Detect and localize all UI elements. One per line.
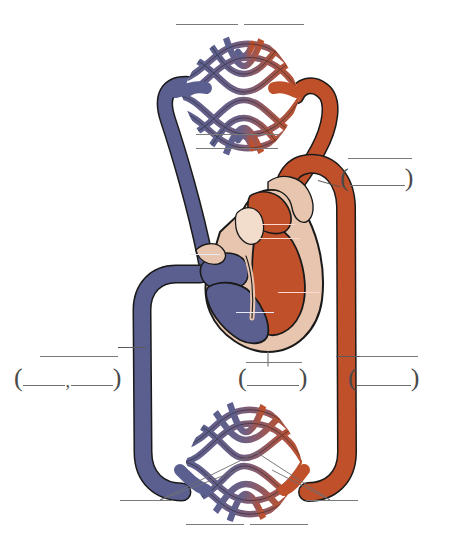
blank-bottom-mid-1[interactable]	[186, 524, 244, 525]
heart	[196, 176, 323, 352]
leader-left-middle	[118, 347, 146, 348]
blank-upper-mid-1[interactable]	[196, 134, 278, 135]
paren-blank-2[interactable]	[71, 372, 113, 386]
blank-left-middle[interactable]	[40, 356, 118, 357]
paren-open: (	[340, 165, 349, 191]
paren-open: (	[238, 365, 247, 391]
blank-top-left[interactable]	[176, 24, 238, 25]
paren-blank[interactable]	[357, 372, 411, 386]
pulmonary-capillary-bed	[175, 28, 309, 164]
blank-bottom-right[interactable]	[306, 500, 358, 501]
blank-top-right[interactable]	[244, 24, 304, 25]
blank-bottom-mid-2[interactable]	[250, 524, 308, 525]
paren-blank-1[interactable]	[23, 372, 65, 386]
white-blank-aortic-arch[interactable]	[259, 238, 300, 239]
white-blank-left-ventricle[interactable]	[278, 292, 320, 293]
white-blank-upper-vessel[interactable]	[259, 224, 295, 225]
paren-close: )	[411, 365, 420, 391]
blank-above-paren-upper-right[interactable]	[348, 158, 412, 159]
blank-upper-mid-2[interactable]	[196, 148, 278, 149]
diagram-canvas: ( ) ( , ) ( ) ( )	[0, 0, 456, 540]
circulatory-system-illustration	[0, 0, 456, 540]
paren-right-middle[interactable]: ( )	[348, 366, 419, 392]
paren-center-lower[interactable]: ( )	[238, 366, 307, 392]
paren-blank[interactable]	[349, 172, 405, 186]
leader-right-middle	[336, 356, 360, 357]
blank-center-lower[interactable]	[246, 362, 302, 363]
paren-separator: ,	[65, 372, 71, 390]
paren-close: )	[405, 165, 414, 191]
blank-bottom-left[interactable]	[120, 500, 172, 501]
paren-left-middle[interactable]: ( , )	[14, 366, 121, 392]
systemic-capillary-bed	[180, 394, 310, 530]
white-blank-right-ventricle[interactable]	[236, 312, 274, 313]
paren-close: )	[113, 365, 122, 391]
paren-open: (	[348, 365, 357, 391]
paren-upper-right[interactable]: ( )	[340, 166, 413, 192]
paren-close: )	[299, 365, 308, 391]
paren-blank[interactable]	[247, 372, 299, 386]
paren-open: (	[14, 365, 23, 391]
blank-right-middle[interactable]	[356, 356, 418, 357]
white-blank-right-atrium[interactable]	[190, 254, 220, 255]
